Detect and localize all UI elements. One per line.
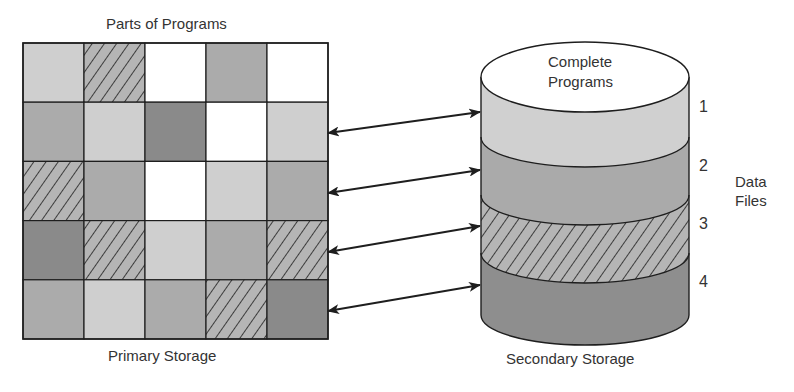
primary-top-label: Parts of Programs — [106, 15, 227, 32]
grid-cell-r4-c4 — [206, 221, 267, 280]
grid-cell-r5-c1 — [23, 280, 84, 339]
grid-cell-r2-c2 — [84, 102, 145, 161]
grid-cell-r2-c1 — [23, 102, 84, 161]
grid-cell-r3-c4 — [206, 161, 267, 220]
grid-cell-r2-c4 — [206, 102, 267, 161]
arrow-row4-layer3 — [328, 226, 480, 252]
grid-cell-r1-c5 — [267, 43, 328, 102]
grid-cell-r2-c3 — [145, 102, 206, 161]
primary-bottom-label: Primary Storage — [108, 347, 216, 364]
grid-cell-r3-c3 — [145, 161, 206, 220]
grid-cell-r3-c1 — [23, 161, 84, 220]
grid-cell-r4-c3 — [145, 221, 206, 280]
grid-cell-r5-c5 — [267, 280, 328, 339]
grid-cell-r5-c2 — [84, 280, 145, 339]
grid-cell-r2-c5 — [267, 102, 328, 161]
layer-number-3: 3 — [699, 215, 708, 233]
arrow-row3-layer2 — [328, 170, 480, 193]
grid-cell-r3-c5 — [267, 161, 328, 220]
secondary-bottom-label: Secondary Storage — [506, 350, 634, 367]
cylinder-top-label-1: Complete — [548, 53, 612, 70]
grid-cell-r5-c4 — [206, 280, 267, 339]
data-files-label-1: Data — [735, 173, 767, 190]
grid-cell-r4-c5 — [267, 221, 328, 280]
layer-number-4: 4 — [699, 273, 708, 291]
grid-cell-r3-c2 — [84, 161, 145, 220]
grid-cell-r4-c1 — [23, 221, 84, 280]
layer-number-1: 1 — [699, 98, 708, 116]
arrow-row5-layer4 — [328, 285, 480, 311]
grid-cell-r1-c1 — [23, 43, 84, 102]
connection-arrows — [328, 112, 480, 311]
primary-storage-grid — [23, 43, 328, 339]
cylinder-top-label-2: Programs — [548, 73, 613, 90]
grid-cell-r1-c4 — [206, 43, 267, 102]
grid-cell-r1-c2 — [84, 43, 145, 102]
data-files-label-2: Files — [735, 192, 767, 209]
grid-cell-r1-c3 — [145, 43, 206, 102]
arrow-row2-layer1 — [328, 112, 480, 133]
grid-cell-r5-c3 — [145, 280, 206, 339]
layer-number-2: 2 — [699, 157, 708, 175]
diagram-canvas — [0, 0, 794, 392]
grid-cell-r4-c2 — [84, 221, 145, 280]
